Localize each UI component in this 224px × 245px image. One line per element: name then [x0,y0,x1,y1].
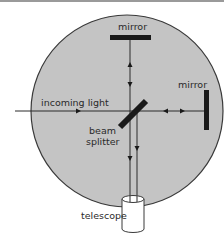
beam-splitter-label-line2: splitter [86,136,120,147]
incoming-light-label: incoming light [41,97,109,108]
beam-splitter-label-line1: beam [89,125,116,136]
top-mirror [110,35,151,40]
right-mirror-label: mirror [178,79,207,90]
top-mirror-label: mirror [118,21,147,32]
telescope-label: telescope [81,210,127,221]
interferometer-diagram: mirror mirror incoming light beam splitt… [0,0,224,245]
right-mirror [204,90,209,130]
